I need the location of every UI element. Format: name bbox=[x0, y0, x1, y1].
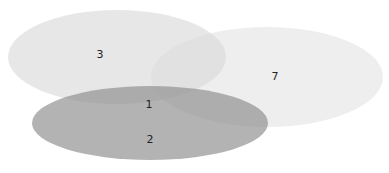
label-set-a-c-overlap: 1 bbox=[146, 98, 153, 111]
label-set-c-only: 2 bbox=[147, 133, 154, 146]
label-set-a-only: 3 bbox=[97, 48, 104, 61]
label-set-b-only: 7 bbox=[272, 70, 279, 83]
venn-diagram: 3 7 1 2 bbox=[0, 0, 389, 173]
